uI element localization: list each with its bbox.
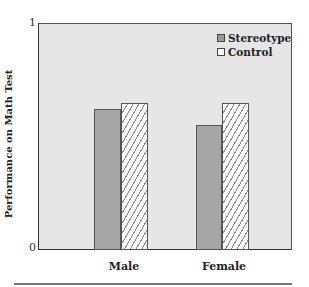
y-tick-0: 0	[29, 241, 36, 254]
y-axis-label: Performance on Math Test	[0, 0, 16, 287]
legend-label: Stereotype	[228, 32, 291, 44]
bar-male-stereotype	[94, 109, 121, 250]
y-axis-label-text: Performance on Math Test	[3, 69, 14, 218]
bar-female-stereotype	[196, 125, 222, 250]
plot-area: Stereotype Control	[38, 23, 292, 250]
x-label-female: Female	[202, 260, 246, 273]
y-tick-1: 1	[29, 16, 36, 29]
legend-item-stereotype: Stereotype	[217, 31, 291, 45]
bar-female-control	[222, 103, 249, 250]
bar-male-control	[121, 103, 148, 250]
legend-label: Control	[228, 46, 272, 58]
bottom-rule	[14, 283, 292, 285]
x-label-male: Male	[109, 260, 139, 273]
control-swatch-icon	[217, 48, 225, 56]
stereotype-swatch-icon	[217, 34, 225, 42]
legend-item-control: Control	[217, 45, 291, 59]
legend: Stereotype Control	[217, 31, 291, 59]
